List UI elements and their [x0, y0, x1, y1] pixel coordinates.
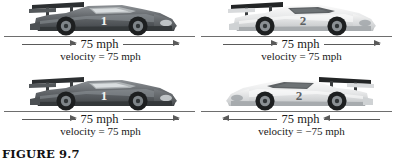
headlight — [160, 20, 172, 26]
wheel-rear — [327, 91, 346, 110]
speed-label: 75 mph — [282, 38, 320, 51]
velocity-label: velocity = 75 mph — [201, 51, 402, 62]
car-number: 1 — [101, 13, 108, 28]
car-number: 2 — [296, 88, 303, 103]
car-number: 2 — [300, 13, 307, 28]
panel-bottom-left: 1 75 mph velocity = 75 mph — [0, 75, 201, 150]
arrow-left-segment — [22, 44, 76, 45]
arrow-right-segment — [324, 119, 380, 120]
wheel-rear — [56, 91, 75, 110]
arrow-left-segment — [223, 44, 277, 45]
car-number: 1 — [101, 88, 108, 103]
arrow-right-segment — [123, 119, 179, 120]
wheel-front — [128, 91, 147, 110]
speed-arrow-row: 75 mph — [201, 112, 402, 126]
velocity-label: velocity = −75 mph — [201, 126, 402, 137]
arrow-left-segment — [223, 119, 277, 120]
speed-arrow-row: 75 mph — [0, 112, 201, 126]
wheel-rear — [56, 16, 75, 35]
velocity-label: velocity = 75 mph — [0, 51, 201, 62]
race-car-1: 1 — [26, 75, 178, 112]
speed-label: 75 mph — [282, 113, 320, 126]
arrow-right-segment — [123, 44, 179, 45]
arrow-right-segment — [324, 44, 380, 45]
race-car-2: 2 — [225, 0, 377, 37]
figure-caption: FIGURE 9.7 — [2, 147, 80, 159]
race-car-1: 1 — [26, 0, 178, 37]
speed-arrow-row: 75 mph — [201, 37, 402, 51]
speed-arrow-row: 75 mph — [0, 37, 201, 51]
wheel-front — [327, 16, 346, 35]
speed-label: 75 mph — [81, 113, 119, 126]
wheel-front — [255, 91, 274, 110]
race-car-2: 2 — [225, 75, 377, 112]
panel-top-left: 1 75 mph velocity = 75 mph — [0, 0, 201, 75]
physics-figure: 1 75 mph velocity = 75 mph — [0, 0, 402, 159]
velocity-label: velocity = 75 mph — [0, 126, 201, 137]
panel-top-right: 2 75 mph velocity = 75 mph — [201, 0, 402, 75]
headlight — [359, 20, 371, 26]
headlight — [231, 95, 243, 101]
wheel-front — [128, 16, 147, 35]
arrow-left-segment — [22, 119, 76, 120]
speed-label: 75 mph — [81, 38, 119, 51]
wheel-rear — [255, 16, 274, 35]
panel-bottom-right: 2 75 mph velocity = −75 mph — [201, 75, 402, 150]
headlight — [160, 95, 172, 101]
